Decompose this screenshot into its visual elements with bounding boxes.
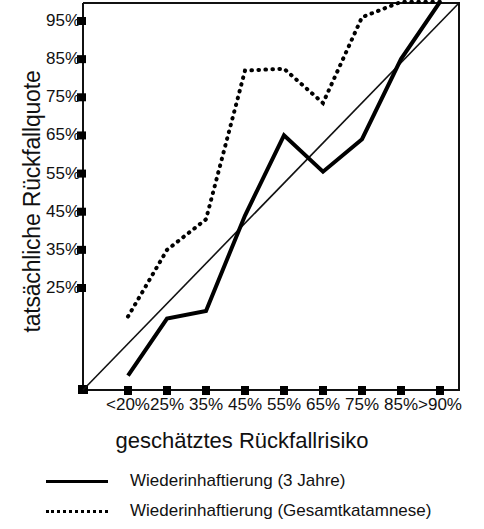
x-tick-label: >90% [408, 396, 472, 413]
x-tick-mark [163, 386, 171, 395]
x-axis-title: geschätztes Rückfallrisiko [0, 428, 484, 454]
x-tick-mark [280, 386, 288, 395]
legend-label-3-jahre: Wiederinhaftierung (3 Jahre) [110, 471, 345, 491]
y-tick-label: 25% [18, 279, 80, 296]
x-tick-mark [358, 386, 366, 395]
x-tick-mark [202, 386, 210, 395]
x-tick-mark [397, 386, 405, 395]
series-line-gesamtkatamnese [128, 2, 440, 317]
y-tick-label: 45% [18, 203, 80, 220]
y-tick-label: 65% [18, 126, 80, 143]
x-tick-mark [319, 386, 327, 395]
recidivism-line-chart: tatsächliche Rückfallquote 25%35%45%55%6… [0, 0, 484, 529]
y-tick-label: 55% [18, 165, 80, 182]
legend: Wiederinhaftierung (3 Jahre) Wiederinhaf… [44, 466, 484, 526]
series-line-3-jahre [128, 2, 440, 376]
x-tick-mark [124, 386, 132, 395]
y-tick-label: 85% [18, 50, 80, 67]
y-tick-label: 75% [18, 88, 80, 105]
legend-swatch-solid-line-icon [44, 470, 110, 492]
x-tick-mark [241, 386, 249, 395]
legend-item-3-jahre: Wiederinhaftierung (3 Jahre) [44, 466, 484, 496]
x-tick-mark [436, 386, 444, 395]
legend-label-gesamtkatamnese: Wiederinhaftierung (Gesamtkatamnese) [110, 501, 431, 521]
legend-swatch-dotted-line-icon [44, 500, 110, 522]
legend-item-gesamtkatamnese: Wiederinhaftierung (Gesamtkatamnese) [44, 496, 484, 526]
y-tick-label: 35% [18, 241, 80, 258]
y-tick-label: 95% [18, 12, 80, 29]
series-line-reference-diagonal [83, 3, 459, 390]
